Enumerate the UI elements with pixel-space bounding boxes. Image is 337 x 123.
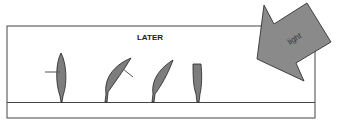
phototropism-diagram: LATER light bbox=[0, 0, 337, 123]
title-label: LATER bbox=[137, 33, 163, 42]
